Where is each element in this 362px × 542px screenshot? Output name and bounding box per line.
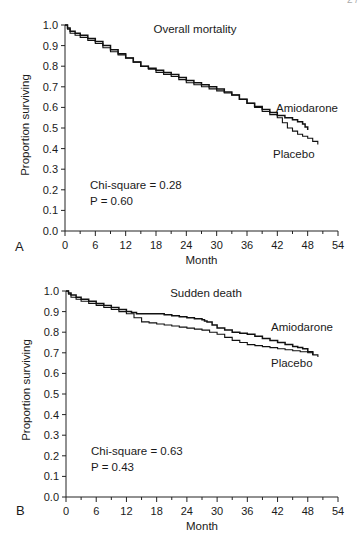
x-tick-label: 0 — [63, 505, 69, 517]
x-tick-label: 24 — [180, 239, 192, 251]
y-tick-label: 0.8 — [43, 60, 58, 72]
x-tick-label: 30 — [211, 505, 223, 517]
p-value-annotation: P = 0.60 — [90, 195, 133, 207]
chart-panel-a: 0.00.10.20.30.40.50.60.70.80.91.00612182… — [15, 19, 344, 266]
x-tick-label: 12 — [120, 239, 132, 251]
x-tick-label: 36 — [241, 505, 253, 517]
amiodarone-label: Amiodarone — [271, 321, 333, 333]
x-tick-label: 6 — [92, 239, 98, 251]
x-tick-label: 42 — [271, 505, 283, 517]
y-tick-label: 0.4 — [43, 143, 58, 155]
km-survival-figure: 0.00.10.20.30.40.50.60.70.80.91.00612182… — [0, 0, 362, 542]
x-tick-label: 18 — [150, 239, 162, 251]
y-tick-label: 0.7 — [43, 81, 58, 93]
x-tick-label: 12 — [120, 505, 132, 517]
y-axis-title: Proportion surviving — [20, 339, 32, 441]
panel-label: A — [15, 239, 24, 254]
y-tick-label: 0.9 — [43, 40, 58, 52]
y-tick-label: 0.2 — [43, 184, 58, 196]
chart-panel-b: 0.00.10.20.30.40.50.60.70.80.91.00612182… — [16, 285, 344, 532]
chi-square-annotation: Chi-square = 0.28 — [90, 179, 182, 191]
y-tick-label: 0.1 — [43, 204, 58, 216]
x-tick-label: 30 — [211, 239, 223, 251]
y-tick-label: 0.0 — [43, 225, 58, 237]
x-tick-label: 48 — [302, 239, 314, 251]
x-axis-title: Month — [186, 520, 218, 532]
chart-title: Sudden death — [170, 287, 242, 299]
chart-title: Overall mortality — [153, 23, 236, 35]
y-tick-label: 1.0 — [44, 285, 59, 297]
amiodarone-label: Amiodarone — [276, 102, 338, 114]
y-tick-label: 0.5 — [44, 388, 59, 400]
y-tick-label: 0.7 — [44, 347, 59, 359]
x-tick-label: 42 — [271, 239, 283, 251]
x-tick-label: 54 — [332, 239, 344, 251]
x-tick-label: 6 — [93, 505, 99, 517]
x-axis-title: Month — [186, 254, 218, 266]
placebo-label: Placebo — [273, 148, 315, 160]
y-tick-label: 0.2 — [44, 450, 59, 462]
x-tick-label: 0 — [62, 239, 68, 251]
y-tick-label: 0.4 — [44, 409, 59, 421]
x-tick-label: 36 — [241, 239, 253, 251]
chi-square-annotation: Chi-square = 0.63 — [91, 445, 183, 457]
y-tick-label: 0.9 — [44, 306, 59, 318]
y-tick-label: 1.0 — [43, 19, 58, 31]
x-tick-label: 24 — [181, 505, 193, 517]
x-tick-label: 18 — [151, 505, 163, 517]
y-tick-label: 0.6 — [44, 367, 59, 379]
y-tick-label: 0.3 — [43, 163, 58, 175]
placebo-label: Placebo — [271, 357, 313, 369]
y-tick-label: 0.3 — [44, 429, 59, 441]
panel-label: B — [16, 503, 25, 518]
y-tick-label: 0.0 — [44, 491, 59, 503]
x-tick-label: 54 — [332, 505, 344, 517]
y-tick-label: 0.8 — [44, 326, 59, 338]
y-tick-label: 0.6 — [43, 101, 58, 113]
x-tick-label: 48 — [302, 505, 314, 517]
y-axis-title: Proportion surviving — [19, 74, 31, 176]
y-tick-label: 0.5 — [43, 122, 58, 134]
y-tick-label: 0.1 — [44, 470, 59, 482]
p-value-annotation: P = 0.43 — [91, 461, 134, 473]
